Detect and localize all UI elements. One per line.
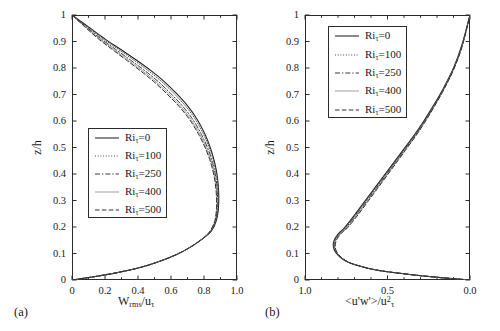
panel-b-legend: Riτ=0Riτ=100Riτ=250Riτ=400Riτ=500 [328,26,407,118]
legend-line-sample-icon [334,49,360,61]
legend-item-label: Riτ=400 [365,84,401,98]
legend-item: Riτ=100 [329,46,406,63]
legend-item: Riτ=0 [329,28,406,45]
panel-b-tag: (b) [265,305,280,320]
legend-line-sample-icon [334,104,360,116]
legend-line-sample-icon [334,67,360,79]
legend-item-label: Riτ=0 [365,29,390,43]
panel-b-xtick-label: 0.5 [381,286,394,297]
legend-item: Riτ=250 [329,65,406,82]
legend-item-label: Riτ=500 [365,103,401,117]
panel-b-ytick-label: 0.9 [263,36,299,47]
panel-b-ytick-label: 0.3 [263,195,299,206]
panel-b-ytick-label: 0.6 [263,116,299,127]
legend-item: Riτ=400 [329,83,406,100]
panel-b-ytick-label: 0.4 [263,169,299,180]
legend-item-label: Riτ=100 [365,48,401,62]
panel-b-ytick-label: 0.2 [263,222,299,233]
legend-item: Riτ=500 [329,101,406,118]
panel-b-ytick-label: 0.1 [263,248,299,259]
legend-item-label: Riτ=250 [365,66,401,80]
panel-b-plot-area [0,0,500,331]
figure-container: z/h Wrms/uτ (a) Riτ=0Riτ=100Riτ=250Riτ=4… [0,0,500,331]
panel-b-xtick-label: 0.0 [463,286,476,297]
panel-b-ytick-label: 0.8 [263,63,299,74]
panel-b-ytick-label: 0.5 [263,142,299,153]
legend-line-sample-icon [334,30,360,42]
panel-b-xtick-label: 1.0 [298,286,311,297]
panel-b-ytick-label: 1 [263,10,299,21]
panel-b-ytick-label: 0 [263,275,299,286]
panel-b: z/h <u'w'>/u2τ (b) Riτ=0Riτ=100Riτ=250Ri… [0,0,500,331]
legend-line-sample-icon [334,85,360,97]
panel-b-ytick-label: 0.7 [263,89,299,100]
